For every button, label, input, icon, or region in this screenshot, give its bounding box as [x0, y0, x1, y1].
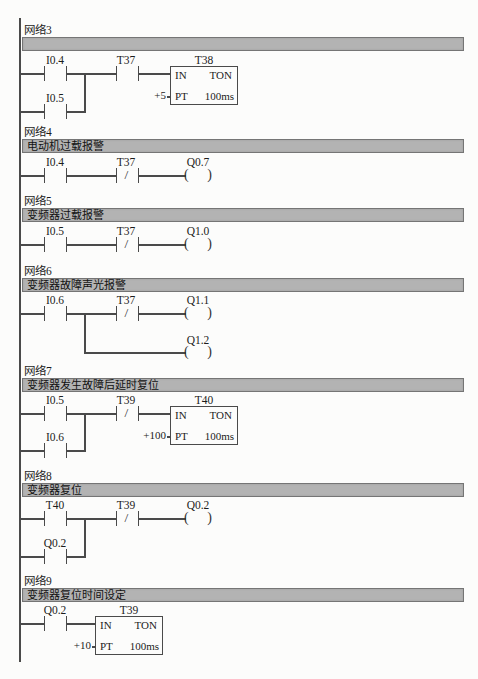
timer-pt-pin: PT: [175, 430, 188, 442]
timer-base: 100ms: [205, 430, 234, 442]
no-contact-bar: [116, 66, 118, 81]
wire: [19, 111, 44, 113]
network-label: 网络8: [24, 467, 52, 483]
contact-label: I0.6: [31, 431, 79, 443]
wire: [19, 556, 44, 558]
no-contact-bar: [44, 168, 46, 183]
branch-wire: [84, 518, 86, 557]
wire: [19, 175, 44, 177]
wire: [19, 313, 44, 315]
nc-slash: [121, 236, 133, 252]
no-contact-bar: [44, 616, 46, 631]
output-coil: [184, 235, 212, 253]
nc-slash: [121, 405, 133, 421]
wire: [67, 73, 116, 75]
wire: [67, 623, 95, 625]
nc-slash: [121, 305, 133, 321]
network-comment-bar: 变频器过载报警: [22, 208, 464, 222]
nc-slash: [121, 167, 133, 183]
no-contact-bar: [44, 549, 46, 564]
timer-in-pin: IN: [100, 619, 112, 631]
wire: [92, 646, 96, 648]
timer-in-pin: IN: [175, 409, 187, 421]
contact-label: I0.5: [31, 394, 79, 406]
network-comment-bar: 变频器复位: [22, 483, 464, 497]
contact-label: I0.5: [31, 225, 79, 237]
contact-label: Q0.2: [31, 604, 79, 616]
contact-label: T37: [102, 54, 150, 66]
wire: [19, 413, 44, 415]
ton-timer-box: IN TON PT 100ms: [170, 406, 238, 445]
no-contact-bar: [44, 443, 46, 458]
nc-slash: [121, 510, 133, 526]
contact-label: I0.4: [31, 156, 79, 168]
contact-label: I0.5: [31, 92, 79, 104]
wire: [139, 413, 170, 415]
wire: [139, 313, 186, 315]
wire: [139, 175, 186, 177]
network-label: 网络4: [24, 123, 52, 139]
timer-label: T38: [180, 54, 228, 66]
no-contact-bar: [44, 66, 46, 81]
wire: [19, 73, 44, 75]
timer-pt-value: +10: [59, 639, 91, 651]
wire: [167, 96, 171, 98]
wire: [67, 175, 116, 177]
network-comment-bar: [22, 37, 464, 51]
wire: [67, 111, 86, 113]
branch-wire: [84, 313, 86, 353]
no-contact-bar: [44, 104, 46, 119]
timer-label: T40: [180, 394, 228, 406]
wire: [19, 623, 44, 625]
wire: [167, 436, 171, 438]
output-coil: [184, 304, 212, 322]
ladder-diagram-page: 网络3 I0.4 T37 T38 I0.5 IN TON PT 100ms +5…: [0, 0, 478, 679]
no-contact-bar: [44, 511, 46, 526]
wire: [67, 244, 116, 246]
timer-pt-pin: PT: [100, 640, 113, 652]
branch-wire: [84, 413, 86, 452]
wire: [67, 556, 86, 558]
nc-contact-bar: [116, 237, 118, 252]
wire: [19, 244, 44, 246]
wire: [139, 73, 170, 75]
nc-contact-bar: [116, 168, 118, 183]
network-label: 网络3: [24, 21, 52, 37]
network-label: 网络6: [24, 262, 52, 278]
contact-label: Q0.2: [31, 537, 79, 549]
wire: [84, 352, 186, 354]
wire: [139, 244, 186, 246]
timer-pt-value: +5: [134, 89, 166, 101]
wire: [19, 450, 44, 452]
timer-type: TON: [210, 69, 232, 81]
output-coil: [184, 343, 212, 361]
wire: [139, 518, 186, 520]
network-label: 网络5: [24, 192, 52, 208]
ton-timer-box: IN TON PT 100ms: [170, 66, 238, 105]
timer-label: T39: [105, 604, 153, 616]
nc-contact-bar: [116, 511, 118, 526]
wire: [19, 518, 44, 520]
timer-pt-value: +100: [134, 429, 166, 441]
no-contact-bar: [44, 406, 46, 421]
wire: [67, 518, 116, 520]
contact-label: I0.4: [31, 54, 79, 66]
timer-pt-pin: PT: [175, 90, 188, 102]
network-label: 网络9: [24, 572, 52, 588]
timer-type: TON: [135, 619, 157, 631]
contact-label: T40: [31, 499, 79, 511]
output-coil: [184, 509, 212, 527]
branch-wire: [84, 73, 86, 112]
nc-contact-bar: [116, 406, 118, 421]
timer-base: 100ms: [130, 640, 159, 652]
wire: [67, 450, 86, 452]
timer-base: 100ms: [205, 90, 234, 102]
no-contact-bar: [44, 237, 46, 252]
network-comment-bar: 变频器发生故障后延时复位: [22, 378, 464, 392]
network-comment-bar: 变频器复位时间设定: [22, 588, 464, 602]
timer-in-pin: IN: [175, 69, 187, 81]
network-comment-bar: 变频器故障声光报警: [22, 278, 464, 292]
output-coil: [184, 166, 212, 184]
power-rail: [19, 18, 21, 662]
wire: [67, 413, 116, 415]
